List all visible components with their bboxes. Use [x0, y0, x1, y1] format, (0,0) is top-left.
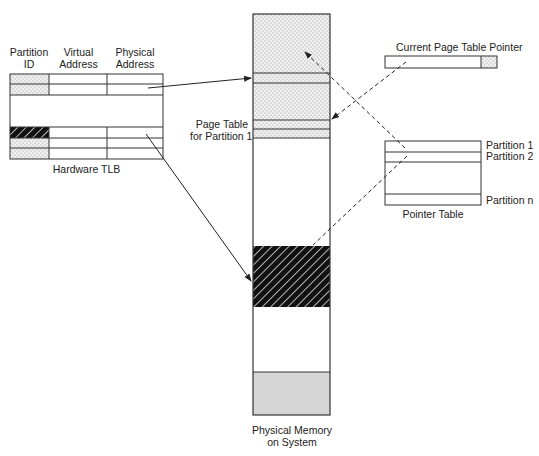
header-line: Virtual: [50, 46, 107, 58]
physical-memory: [253, 14, 330, 415]
hardware-tlb: [10, 74, 163, 159]
memory-system-region: [253, 372, 330, 415]
header-line: Address: [50, 58, 107, 70]
caption-line: Physical Memory: [236, 424, 348, 436]
tlb-cell-partition-row2: [10, 84, 49, 95]
pointer-table: [385, 141, 481, 205]
label-line: for Partition 1: [190, 130, 248, 142]
header-line: Address: [107, 58, 163, 70]
pointer-table-outline: [385, 141, 481, 205]
tlb-header-virtual-address: Virtual Address: [50, 46, 107, 70]
tlb-cell-partition-row1: [10, 74, 49, 84]
header-line: Physical: [107, 46, 163, 58]
tlb-header-physical-address: Physical Address: [107, 46, 163, 70]
header-line: Partition: [4, 46, 54, 58]
pointer-title: Current Page Table Pointer: [396, 41, 522, 53]
memory-partition-1-region: [253, 14, 330, 138]
label-line: Page Table: [190, 118, 248, 130]
tlb-header-partition-id: Partition ID: [4, 46, 54, 70]
current-page-table-pointer: [385, 56, 497, 68]
pointer-box: [385, 56, 497, 68]
header-line: ID: [4, 58, 54, 70]
pointer-dotted-part: [481, 56, 497, 68]
pointer-table-entry-partition-2: Partition 2: [486, 150, 533, 162]
page-table-label: Page Table for Partition 1: [190, 118, 248, 142]
caption-line: on System: [236, 436, 348, 448]
pointer-table-entry-partition-n: Partition n: [486, 194, 533, 206]
tlb-cell-partition-row6: [10, 148, 49, 159]
dashed-arrow-pointer-to-page-table: [332, 62, 406, 119]
tlb-cell-partition-row4: [10, 127, 49, 138]
pointer-table-caption: Pointer Table: [385, 208, 481, 220]
memory-caption: Physical Memory on System: [236, 424, 348, 448]
tlb-caption: Hardware TLB: [10, 163, 163, 175]
arrow-tlb-to-hatched-page: [146, 134, 251, 281]
memory-hatched-region: [253, 246, 330, 307]
tlb-cell-partition-row5: [10, 138, 49, 148]
dashed-line-partition2-to-hatched: [313, 156, 407, 245]
